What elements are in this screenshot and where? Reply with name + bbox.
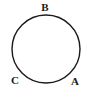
circle (12, 15, 80, 83)
point-label-b: B (41, 1, 49, 13)
point-label-a: A (71, 75, 79, 87)
circle-diagram: B C A (0, 0, 88, 87)
point-label-c: C (11, 74, 19, 86)
